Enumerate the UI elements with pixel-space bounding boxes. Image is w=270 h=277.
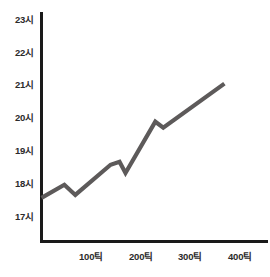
y-tick-label-18: 18시: [4, 176, 34, 190]
x-tick-label-400: 400틱: [218, 249, 262, 263]
y-tick-label-23: 23시: [4, 12, 34, 26]
y-tick-label-19: 19시: [4, 143, 34, 157]
line-chart: 23시 22시 21시 20시 19시 18시 17시 100틱 200틱 30…: [0, 0, 270, 277]
x-tick-label-300: 300틱: [168, 249, 212, 263]
y-tick-label-17: 17시: [4, 209, 34, 223]
x-tick-label-100: 100틱: [69, 249, 113, 263]
chart-plot-area: [0, 0, 270, 277]
y-tick-label-22: 22시: [4, 45, 34, 59]
x-tick-label-200: 200틱: [119, 249, 163, 263]
y-tick-label-21: 21시: [4, 77, 34, 91]
data-series-line: [42, 84, 225, 198]
y-tick-label-20: 20시: [4, 110, 34, 124]
